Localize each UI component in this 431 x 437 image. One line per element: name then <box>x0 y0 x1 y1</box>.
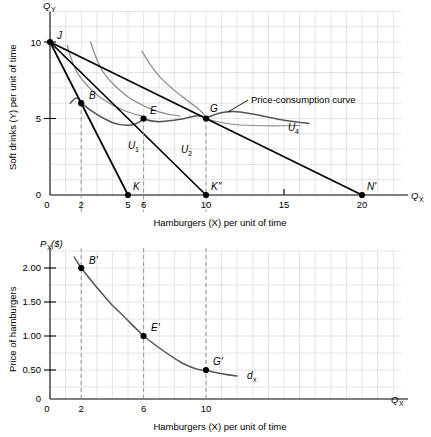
top-x-axis-symbol: Q X <box>411 190 424 203</box>
bottom-x-tick-label-10: 10 <box>201 403 212 414</box>
label-curve-u4: U 4 <box>288 122 299 135</box>
label-curve-dx: d x <box>247 370 257 383</box>
demand-point-g <box>203 367 209 373</box>
bottom-x-tick-label-6: 6 <box>141 403 146 414</box>
top-x-tick-label-15: 15 <box>279 199 290 210</box>
label-curve-u1: U 1 <box>128 140 139 153</box>
top-x-axis-title: Hamburgers (X) per unit of time <box>153 217 286 228</box>
top-y-axis-symbol-base: Q <box>43 0 51 11</box>
point-k <box>125 192 131 198</box>
demand-label-point-e: E' <box>151 322 161 333</box>
label-curve-u1-sub: 1 <box>135 146 139 153</box>
label-point-e: E <box>150 105 157 116</box>
bottom-x-tick-label-2: 2 <box>79 403 84 414</box>
bottom-x-axis-title: Hamburgers (X) per unit of time <box>153 421 286 432</box>
label-curve-u4-sub: 4 <box>295 128 299 135</box>
bottom-y-tick-label-100: 1.00 <box>23 330 42 341</box>
point-j <box>47 39 53 45</box>
top-x-axis-symbol-sub: X <box>419 196 424 203</box>
bottom-panel-grid <box>50 251 401 399</box>
point-k2 <box>203 192 209 198</box>
top-x-tick-label-10: 10 <box>201 199 212 210</box>
top-y-axis-symbol-sub: Y <box>51 6 56 13</box>
top-y-tick-label-10: 10 <box>30 37 41 48</box>
economics-figure: J B E G K K'' N' U 1 U 2 U 4 Price-consu… <box>0 0 431 437</box>
label-point-n: N' <box>367 181 377 192</box>
label-point-k: K <box>133 181 141 192</box>
top-x-tick-label-6: 6 <box>141 199 146 210</box>
bottom-y-axis-title: Price of hamburgers <box>7 286 18 372</box>
indifference-curve-u2 <box>91 42 180 116</box>
label-curve-u2-sub: 2 <box>188 150 192 157</box>
label-point-k2: K'' <box>211 181 223 192</box>
top-x-tick-label-2: 2 <box>79 199 84 210</box>
demand-label-point-b: B' <box>89 255 99 266</box>
demand-point-e <box>141 333 147 339</box>
point-g <box>203 115 209 121</box>
top-x-axis-symbol-base: Q <box>411 190 419 201</box>
bottom-x-axis-symbol: Q X <box>391 394 404 407</box>
bottom-y-tick-label-050: 0.50 <box>23 364 42 375</box>
label-point-b: B <box>89 90 96 101</box>
top-x-tick-label-0: 0 <box>44 199 49 210</box>
bottom-y-axis-symbol: P X ($) <box>40 238 63 251</box>
top-y-tick-label-5: 5 <box>36 113 41 124</box>
label-curve-dx-sub: x <box>253 376 257 383</box>
top-y-axis-title: Soft drinks (Y) per unit of time <box>7 44 18 170</box>
bottom-x-axis-symbol-base: Q <box>391 394 399 405</box>
bottom-y-axis-unit: ($) <box>51 238 63 249</box>
bottom-x-axis-symbol-sub: X <box>399 400 404 407</box>
point-b <box>78 100 84 106</box>
bottom-y-tick-label-200: 2.00 <box>23 262 42 273</box>
top-y-tick-label-0: 0 <box>36 189 41 200</box>
pcc-leader-line <box>228 100 248 112</box>
bottom-y-axis-symbol-base: P <box>40 238 47 249</box>
point-n <box>359 192 365 198</box>
label-point-g: G <box>210 103 218 114</box>
demand-label-point-g: G' <box>213 356 224 367</box>
bottom-y-tick-label-150: 1.50 <box>23 296 42 307</box>
top-x-tick-label-20: 20 <box>357 199 368 210</box>
point-e <box>141 115 147 121</box>
indifference-curve-u4 <box>142 51 300 126</box>
bottom-y-tick-label-0: 0 <box>36 393 41 404</box>
label-point-j: J <box>56 30 63 41</box>
bottom-x-tick-label-0: 0 <box>44 403 49 414</box>
top-y-axis-symbol: Q Y <box>43 0 56 13</box>
indifference-panel: J B E G K K'' N' U 1 U 2 U 4 Price-consu… <box>7 0 424 228</box>
demand-point-b <box>78 265 84 271</box>
top-x-tick-label-5: 5 <box>125 199 130 210</box>
annotation-price-consumption-curve: Price-consumption curve <box>251 94 356 105</box>
demand-panel: B' E' G' d x 0 2 6 10 0 0.50 1.00 1.50 2… <box>7 238 408 432</box>
